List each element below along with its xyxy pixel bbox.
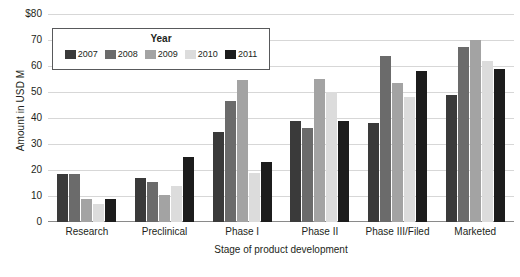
y-axis-tick-label: 50 xyxy=(31,87,42,97)
bar xyxy=(69,174,80,222)
legend-swatch xyxy=(65,50,76,59)
bar xyxy=(261,162,272,222)
x-axis-tick-label: Preclinical xyxy=(126,226,204,237)
y-axis-tick-label: 10 xyxy=(31,191,42,201)
bar xyxy=(482,61,493,222)
legend-title: Year xyxy=(53,33,269,44)
x-axis-tick-label: Phase III/Filed xyxy=(359,226,437,237)
bar-chart: Amount in USD M $80706050403020100 Year … xyxy=(0,0,520,277)
legend-item: 2011 xyxy=(225,49,257,59)
bar xyxy=(290,121,301,222)
x-axis-tick-label: Phase I xyxy=(203,226,281,237)
y-axis-tick-label: 70 xyxy=(31,35,42,45)
bar xyxy=(183,157,194,222)
bar xyxy=(213,132,224,222)
legend-swatch xyxy=(185,50,196,59)
legend-swatch xyxy=(105,50,116,59)
bar xyxy=(159,195,170,222)
x-axis-title: Stage of product development xyxy=(48,244,514,255)
bar-group xyxy=(281,14,359,222)
bar xyxy=(249,173,260,222)
bar xyxy=(380,56,391,222)
legend: Year 20072008200920102011 xyxy=(52,28,270,70)
bar xyxy=(494,69,505,222)
legend-label: 2011 xyxy=(238,49,257,59)
bar-group xyxy=(436,14,514,222)
bar xyxy=(368,123,379,222)
x-axis-tick-label: Research xyxy=(48,226,126,237)
bar xyxy=(458,47,469,223)
legend-item: 2009 xyxy=(145,49,178,59)
legend-swatch xyxy=(225,50,236,59)
bar xyxy=(225,101,236,222)
legend-label: 2007 xyxy=(78,49,98,59)
bar xyxy=(392,83,403,222)
legend-item: 2008 xyxy=(105,49,138,59)
bar xyxy=(338,121,349,222)
legend-label: 2008 xyxy=(118,49,138,59)
y-axis-tick-labels: $80706050403020100 xyxy=(0,0,46,277)
bar xyxy=(326,92,337,222)
bar xyxy=(446,95,457,222)
bar xyxy=(470,40,481,222)
y-axis-tick-label: 20 xyxy=(31,165,42,175)
bar xyxy=(171,186,182,222)
x-axis-tick-label: Phase II xyxy=(281,226,359,237)
x-axis-tick-labels: ResearchPreclinicalPhase IPhase IIPhase … xyxy=(48,226,514,237)
y-axis-tick-label: 60 xyxy=(31,61,42,71)
bar xyxy=(147,182,158,222)
bar xyxy=(237,80,248,222)
bar xyxy=(416,71,427,222)
legend-swatch xyxy=(145,50,156,59)
y-axis-tick-label: $80 xyxy=(25,9,42,19)
legend-label: 2009 xyxy=(158,49,178,59)
legend-item: 2007 xyxy=(65,49,98,59)
bar-group xyxy=(359,14,437,222)
legend-label: 2010 xyxy=(198,49,218,59)
y-axis-tick-label: 30 xyxy=(31,139,42,149)
y-axis-tick-label: 40 xyxy=(31,113,42,123)
bar xyxy=(57,174,68,222)
bar xyxy=(302,128,313,222)
bar xyxy=(404,97,415,222)
legend-item: 2010 xyxy=(185,49,218,59)
y-axis-tick-label: 0 xyxy=(36,217,42,227)
bar xyxy=(93,204,104,222)
legend-items: 20072008200920102011 xyxy=(53,49,269,59)
bar xyxy=(314,79,325,222)
x-axis-tick-label: Marketed xyxy=(436,226,514,237)
bar xyxy=(81,199,92,222)
bar xyxy=(135,178,146,222)
bar xyxy=(105,199,116,222)
